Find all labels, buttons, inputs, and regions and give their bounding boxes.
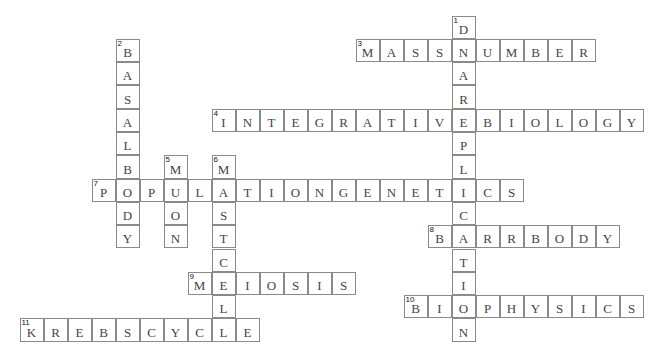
crossword-cell[interactable]: B: [116, 155, 140, 178]
crossword-cell[interactable]: T: [428, 179, 452, 202]
crossword-cell[interactable]: D: [572, 225, 596, 248]
crossword-cell[interactable]: U: [164, 179, 188, 202]
crossword-cell[interactable]: R: [452, 85, 476, 108]
crossword-cell[interactable]: 3M: [356, 39, 380, 62]
crossword-cell[interactable]: A: [116, 62, 140, 85]
crossword-cell[interactable]: G: [332, 179, 356, 202]
crossword-cell[interactable]: L: [548, 109, 572, 132]
crossword-cell[interactable]: I: [428, 295, 452, 318]
crossword-cell[interactable]: C: [212, 249, 236, 272]
crossword-cell[interactable]: O: [452, 295, 476, 318]
crossword-cell[interactable]: I: [452, 272, 476, 295]
crossword-cell[interactable]: S: [284, 272, 308, 295]
crossword-cell[interactable]: 1D: [452, 16, 476, 39]
crossword-cell[interactable]: B: [524, 39, 548, 62]
crossword-cell[interactable]: T: [452, 249, 476, 272]
crossword-cell[interactable]: 6M: [212, 155, 236, 178]
crossword-cell[interactable]: Y: [164, 318, 188, 341]
crossword-cell[interactable]: T: [380, 109, 404, 132]
crossword-cell[interactable]: P: [476, 295, 500, 318]
crossword-cell[interactable]: L: [212, 318, 236, 341]
crossword-cell[interactable]: S: [116, 318, 140, 341]
crossword-cell[interactable]: Y: [596, 225, 620, 248]
crossword-cell[interactable]: B: [476, 109, 500, 132]
crossword-cell[interactable]: P: [452, 132, 476, 155]
crossword-cell[interactable]: 10B: [404, 295, 428, 318]
crossword-cell[interactable]: R: [500, 225, 524, 248]
crossword-cell[interactable]: E: [68, 318, 92, 341]
crossword-cell[interactable]: A: [452, 225, 476, 248]
crossword-cell[interactable]: P: [140, 179, 164, 202]
crossword-cell[interactable]: C: [476, 179, 500, 202]
crossword-cell[interactable]: G: [596, 109, 620, 132]
crossword-cell[interactable]: T: [212, 225, 236, 248]
crossword-cell[interactable]: L: [452, 155, 476, 178]
crossword-cell[interactable]: H: [500, 295, 524, 318]
crossword-cell[interactable]: V: [428, 109, 452, 132]
crossword-cell[interactable]: N: [164, 225, 188, 248]
crossword-cell[interactable]: S: [404, 39, 428, 62]
crossword-cell[interactable]: C: [188, 318, 212, 341]
crossword-cell[interactable]: S: [500, 179, 524, 202]
crossword-cell[interactable]: S: [428, 39, 452, 62]
crossword-cell[interactable]: E: [404, 179, 428, 202]
crossword-cell[interactable]: N: [308, 179, 332, 202]
crossword-cell[interactable]: B: [524, 225, 548, 248]
crossword-cell[interactable]: 4I: [212, 109, 236, 132]
crossword-cell[interactable]: 5M: [164, 155, 188, 178]
crossword-cell[interactable]: 11K: [20, 318, 44, 341]
crossword-cell[interactable]: 2B: [116, 39, 140, 62]
crossword-cell[interactable]: E: [212, 272, 236, 295]
crossword-cell[interactable]: A: [212, 179, 236, 202]
crossword-cell[interactable]: S: [212, 202, 236, 225]
crossword-cell[interactable]: A: [356, 109, 380, 132]
crossword-cell[interactable]: U: [476, 39, 500, 62]
crossword-cell[interactable]: I: [572, 295, 596, 318]
crossword-cell[interactable]: N: [452, 39, 476, 62]
crossword-cell[interactable]: T: [260, 109, 284, 132]
crossword-cell[interactable]: I: [404, 109, 428, 132]
crossword-cell[interactable]: R: [44, 318, 68, 341]
crossword-cell[interactable]: R: [476, 225, 500, 248]
crossword-cell[interactable]: O: [524, 109, 548, 132]
crossword-cell[interactable]: L: [116, 132, 140, 155]
crossword-cell[interactable]: S: [332, 272, 356, 295]
crossword-cell[interactable]: Y: [116, 225, 140, 248]
crossword-cell[interactable]: O: [284, 179, 308, 202]
crossword-cell[interactable]: 7P: [92, 179, 116, 202]
crossword-cell[interactable]: T: [236, 179, 260, 202]
crossword-cell[interactable]: Y: [524, 295, 548, 318]
crossword-cell[interactable]: Y: [620, 109, 644, 132]
crossword-cell[interactable]: A: [452, 62, 476, 85]
crossword-cell[interactable]: G: [308, 109, 332, 132]
crossword-cell[interactable]: B: [92, 318, 116, 341]
crossword-cell[interactable]: I: [308, 272, 332, 295]
crossword-cell[interactable]: E: [236, 318, 260, 341]
crossword-cell[interactable]: R: [332, 109, 356, 132]
crossword-cell[interactable]: E: [284, 109, 308, 132]
crossword-cell[interactable]: N: [236, 109, 260, 132]
crossword-cell[interactable]: 8B: [428, 225, 452, 248]
crossword-cell[interactable]: S: [620, 295, 644, 318]
crossword-cell[interactable]: O: [260, 272, 284, 295]
crossword-cell[interactable]: E: [356, 179, 380, 202]
crossword-cell[interactable]: I: [452, 179, 476, 202]
crossword-cell[interactable]: D: [116, 202, 140, 225]
crossword-cell[interactable]: O: [164, 202, 188, 225]
crossword-cell[interactable]: S: [548, 295, 572, 318]
crossword-cell[interactable]: S: [116, 85, 140, 108]
crossword-cell[interactable]: O: [548, 225, 572, 248]
crossword-cell[interactable]: I: [236, 272, 260, 295]
crossword-cell[interactable]: C: [596, 295, 620, 318]
crossword-cell[interactable]: A: [116, 109, 140, 132]
crossword-cell[interactable]: C: [452, 202, 476, 225]
crossword-cell[interactable]: E: [452, 109, 476, 132]
crossword-cell[interactable]: O: [116, 179, 140, 202]
crossword-cell[interactable]: A: [380, 39, 404, 62]
crossword-cell[interactable]: R: [572, 39, 596, 62]
crossword-cell[interactable]: N: [380, 179, 404, 202]
crossword-cell[interactable]: 9M: [188, 272, 212, 295]
crossword-cell[interactable]: O: [572, 109, 596, 132]
crossword-cell[interactable]: L: [188, 179, 212, 202]
crossword-cell[interactable]: E: [548, 39, 572, 62]
